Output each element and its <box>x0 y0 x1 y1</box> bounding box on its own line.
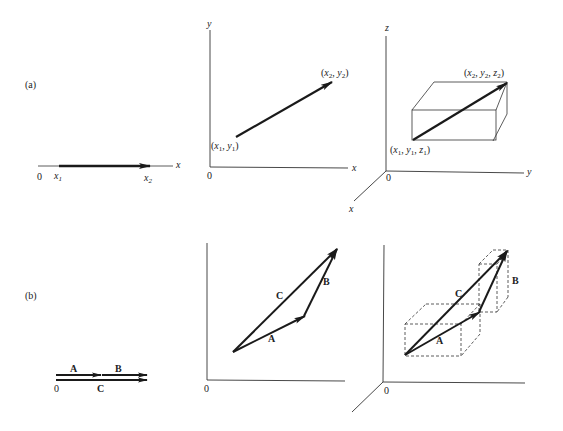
y-axis-line <box>386 171 524 173</box>
vector-b-arrow <box>304 249 337 316</box>
x-axis-label: x <box>176 160 180 170</box>
end-point-label: (x2, y2) <box>321 68 349 80</box>
panel-a-3d <box>354 36 524 201</box>
start-point-label: (x1, y1) <box>211 141 239 153</box>
vector-c-label: C <box>276 291 283 301</box>
vector-arrow <box>236 82 332 137</box>
vector-c-label: C <box>97 384 104 394</box>
vector-c-arrow <box>233 249 337 352</box>
vector-arrow <box>413 83 507 140</box>
z-axis-line <box>383 245 384 382</box>
origin-label: 0 <box>54 384 59 394</box>
origin-label: 0 <box>384 386 389 396</box>
panel-b-2d <box>207 243 345 381</box>
z-axis-label: z <box>385 23 389 33</box>
x-axis-line <box>352 382 383 412</box>
y-axis-label: y <box>527 167 531 177</box>
vector-c-arrow <box>405 251 507 355</box>
vector-b-label: B <box>323 277 330 287</box>
y-axis-label: y <box>207 19 211 29</box>
vector-b-label: B <box>512 276 519 286</box>
vector-a-label: A <box>70 364 77 374</box>
origin-label: 0 <box>386 173 391 183</box>
vector-diagram <box>0 0 563 431</box>
end-point-label: (x2, y2, z2) <box>464 68 504 80</box>
vector-a-arrow <box>405 312 480 355</box>
x-axis-line <box>354 171 386 201</box>
start-point-label: (x1, y1, z1) <box>390 145 430 157</box>
x-axis-line <box>207 380 345 381</box>
y-axis-line <box>383 382 525 383</box>
panel-b-3d <box>352 245 525 412</box>
x-axis-label: x <box>352 163 356 173</box>
vector-a-label: A <box>436 336 443 346</box>
origin-label: 0 <box>207 171 212 181</box>
x1-label: x1 <box>54 171 62 183</box>
panel-b-label: (b) <box>25 291 37 301</box>
x-axis-label: x <box>349 204 353 214</box>
vector-b-label: B <box>115 364 122 374</box>
panel-a-label: (a) <box>25 80 36 90</box>
panel-b-1d <box>56 375 147 380</box>
x-axis-line <box>210 167 348 168</box>
origin-label: 0 <box>204 384 209 394</box>
vector-c-label: C <box>455 289 462 299</box>
vector-a-label: A <box>268 334 275 344</box>
origin-label: 0 <box>37 172 42 182</box>
x2-label: x2 <box>144 173 152 185</box>
